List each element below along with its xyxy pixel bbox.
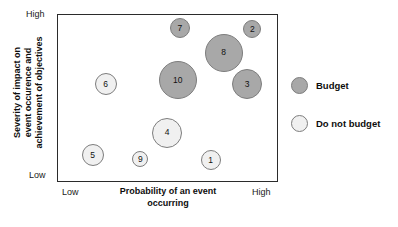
legend-swatch-do-not-budget-icon bbox=[291, 115, 308, 132]
plot-area: 72810364591 bbox=[58, 15, 277, 181]
bubble-label-10: 10 bbox=[173, 76, 182, 85]
bubble-4: 4 bbox=[152, 118, 182, 148]
legend-label-do-not-budget: Do not budget bbox=[316, 118, 380, 129]
x-axis-title-line-2: occurring bbox=[92, 198, 244, 210]
bubble-10: 10 bbox=[159, 61, 197, 99]
bubble-1: 1 bbox=[201, 150, 221, 170]
legend-item-do-not-budget: Do not budget bbox=[291, 112, 395, 134]
bubble-8: 8 bbox=[205, 34, 243, 72]
y-axis-title-line-2: event occurence and bbox=[23, 13, 34, 173]
chart-legend: Budget Do not budget bbox=[291, 74, 395, 150]
legend-swatch-budget-icon bbox=[291, 77, 308, 94]
bubble-label-5: 5 bbox=[90, 151, 95, 160]
bubble-9: 9 bbox=[132, 151, 148, 167]
bubble-label-1: 1 bbox=[208, 156, 213, 165]
bubble-6: 6 bbox=[95, 73, 117, 95]
bubble-7: 7 bbox=[170, 18, 190, 38]
bubble-label-4: 4 bbox=[165, 128, 170, 137]
bubble-label-8: 8 bbox=[221, 48, 226, 57]
bubble-label-9: 9 bbox=[138, 155, 143, 164]
bubble-label-2: 2 bbox=[250, 25, 255, 34]
bubble-label-7: 7 bbox=[177, 24, 182, 33]
legend-label-budget: Budget bbox=[316, 80, 349, 91]
bubble-2: 2 bbox=[243, 20, 261, 38]
bubble-chart: Severity of impact on event occurence an… bbox=[0, 0, 398, 227]
y-axis-title-line-1: Severity of impact on bbox=[12, 13, 23, 173]
x-axis-title: Probability of an event occurring bbox=[92, 186, 244, 209]
legend-item-budget: Budget bbox=[291, 74, 395, 96]
plot-frame: 72810364591 bbox=[57, 14, 278, 182]
y-axis-tick-low: Low bbox=[29, 170, 46, 180]
y-axis-title-line-3: achievement of objectives bbox=[34, 13, 45, 173]
y-axis-tick-high: High bbox=[26, 9, 45, 19]
bubble-3: 3 bbox=[232, 69, 262, 99]
bubble-label-6: 6 bbox=[103, 80, 108, 89]
x-axis-title-line-1: Probability of an event bbox=[92, 186, 244, 198]
y-axis-title: Severity of impact on event occurence an… bbox=[12, 13, 45, 173]
bubble-label-3: 3 bbox=[245, 80, 250, 89]
bubble-5: 5 bbox=[82, 144, 104, 166]
x-axis-tick-high: High bbox=[252, 187, 271, 197]
x-axis-tick-low: Low bbox=[62, 187, 79, 197]
